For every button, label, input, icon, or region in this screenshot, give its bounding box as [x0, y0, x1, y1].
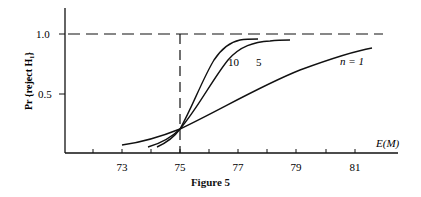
x-tick-label-73: 73 [117, 161, 129, 173]
x-tick-label-81: 81 [350, 161, 361, 173]
curve-n1 [122, 48, 372, 145]
y-tick-label-1: 1.0 [36, 28, 50, 40]
curve-label-n5: 5 [256, 56, 262, 68]
power-curve-chart: 1.0 0.5 73 75 77 79 81 E(M) Pr {reject H… [0, 0, 421, 197]
curve-n10 [157, 39, 258, 147]
y-tick-label-05: 0.5 [38, 88, 52, 100]
curve-n5 [148, 40, 290, 147]
x-tick-label-77: 77 [233, 161, 245, 173]
x-axis-label: E(M) [375, 137, 400, 150]
curve-label-n10: 10 [228, 56, 240, 68]
x-tick-label-75: 75 [175, 161, 187, 173]
curve-label-n1: n = 1 [340, 55, 364, 67]
figure-caption: Figure 5 [0, 176, 421, 188]
x-tick-label-79: 79 [291, 161, 303, 173]
y-axis-label: Pr {reject H₁} [23, 52, 34, 110]
